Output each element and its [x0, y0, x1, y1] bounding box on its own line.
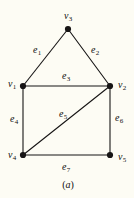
edge-label-e2: e2 — [91, 45, 99, 55]
vertex-label-v5: v5 — [118, 152, 126, 162]
graph-vertex-v1 — [20, 83, 26, 89]
graph-vertex-v2 — [107, 83, 113, 89]
edge-label-e5: e5 — [59, 109, 67, 119]
figure-container: v1v2v3v4v5e1e2e3e4e5e6e7 (a) — [0, 0, 134, 198]
edge-label-e7: e7 — [62, 162, 70, 172]
edge-label-e4: e4 — [10, 114, 18, 124]
vertex-label-v3: v3 — [64, 11, 72, 21]
edge-label-e6: e6 — [115, 113, 123, 123]
vertex-label-v2: v2 — [118, 80, 126, 90]
edge-label-e3: e3 — [62, 71, 70, 81]
graph-edge-e2 — [68, 29, 110, 86]
graph-vertex-v5 — [107, 152, 113, 158]
edge-label-e1: e1 — [33, 45, 41, 55]
figure-caption: (a) — [62, 179, 74, 190]
graph-vertex-v3 — [65, 26, 71, 32]
vertex-label-v1: v1 — [8, 79, 16, 89]
graph-vertex-v4 — [20, 152, 26, 158]
vertex-label-v4: v4 — [8, 150, 16, 160]
